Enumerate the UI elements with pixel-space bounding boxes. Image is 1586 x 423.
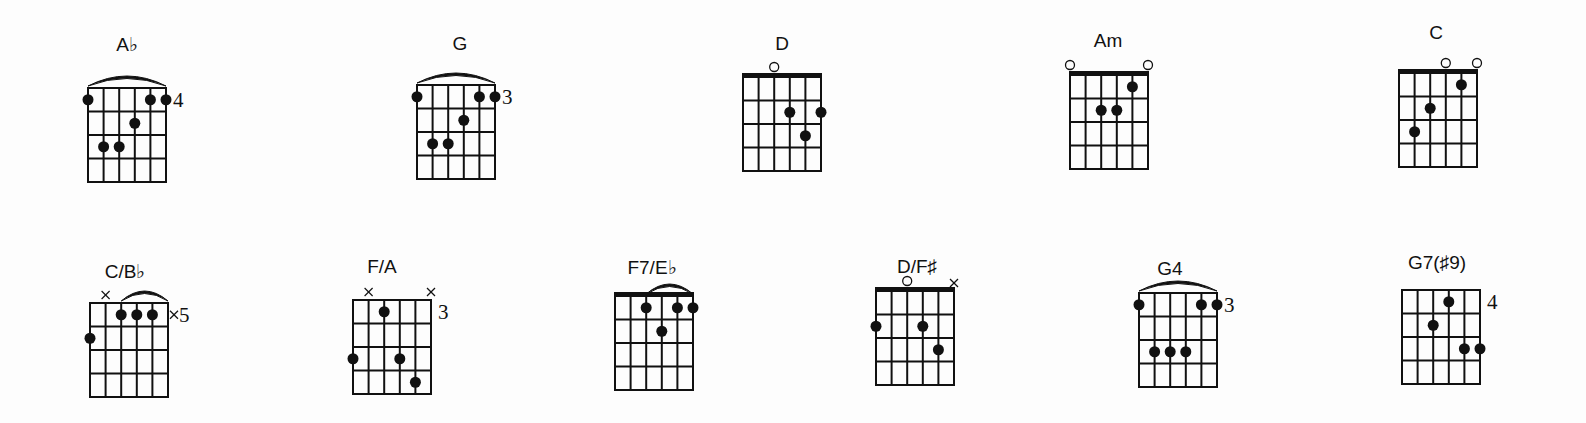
- fretboard-grid: 5: [60, 273, 218, 423]
- finger-dot: [656, 326, 667, 337]
- finger-dot: [348, 353, 359, 364]
- fretboard-grid: [846, 261, 1004, 415]
- finger-dot: [641, 302, 652, 313]
- finger-dot: [474, 91, 485, 102]
- finger-dot: [1425, 103, 1436, 114]
- muted-string-icon: [950, 279, 958, 287]
- finger-dot: [1127, 81, 1138, 92]
- finger-dot: [1111, 105, 1122, 116]
- fretboard-grid: 3: [1109, 263, 1267, 417]
- nut: [1398, 69, 1478, 74]
- finger-dot: [933, 344, 944, 355]
- fret-position-label: 4: [1487, 290, 1498, 314]
- finger-dot: [1165, 346, 1176, 357]
- finger-dot: [871, 321, 882, 332]
- nut: [614, 292, 694, 297]
- muted-string-icon: [427, 288, 435, 296]
- finger-dot: [458, 115, 469, 126]
- nut: [1069, 71, 1149, 76]
- finger-dot: [816, 107, 827, 118]
- muted-string-icon: [365, 288, 373, 296]
- finger-dot: [1196, 299, 1207, 310]
- finger-dot: [672, 302, 683, 313]
- finger-dot: [412, 91, 423, 102]
- finger-dot: [394, 353, 405, 364]
- finger-dot: [161, 94, 172, 105]
- fretboard-grid: [713, 47, 871, 201]
- open-string-icon: [1144, 61, 1153, 70]
- chord-name: C: [1429, 22, 1443, 44]
- finger-dot: [114, 141, 125, 152]
- finger-dot: [800, 130, 811, 141]
- finger-dot: [1459, 343, 1470, 354]
- finger-dot: [1428, 320, 1439, 331]
- fret-position-label: 5: [179, 303, 190, 327]
- barre-arc-icon: [88, 76, 166, 86]
- finger-dot: [1180, 346, 1191, 357]
- nut: [742, 73, 822, 78]
- finger-dot: [427, 138, 438, 149]
- open-string-icon: [903, 277, 912, 286]
- fretboard-grid: [1040, 45, 1198, 199]
- nut: [875, 287, 955, 292]
- finger-dot: [85, 333, 96, 344]
- finger-dot: [98, 141, 109, 152]
- open-string-icon: [770, 63, 779, 72]
- finger-dot: [688, 302, 699, 313]
- fretboard-grid: [1369, 43, 1527, 197]
- finger-dot: [1096, 105, 1107, 116]
- fret-position-label: 4: [173, 88, 184, 112]
- finger-dot: [129, 118, 140, 129]
- fretboard-grid: 3: [323, 270, 481, 423]
- finger-dot: [410, 377, 421, 388]
- muted-string-icon: [102, 291, 110, 299]
- finger-dot: [1475, 343, 1486, 354]
- finger-dot: [1134, 299, 1145, 310]
- finger-dot: [443, 138, 454, 149]
- fretboard-grid: 4: [58, 58, 216, 212]
- finger-dot: [145, 94, 156, 105]
- finger-dot: [917, 321, 928, 332]
- finger-dot: [1456, 79, 1467, 90]
- open-string-icon: [1473, 59, 1482, 68]
- fretboard-grid: 3: [387, 55, 545, 209]
- open-string-icon: [1066, 61, 1075, 70]
- fret-position-label: 3: [502, 85, 513, 109]
- finger-dot: [83, 94, 94, 105]
- finger-dot: [147, 309, 158, 320]
- fretboard-grid: [585, 266, 743, 420]
- barre-arc-icon: [1139, 281, 1217, 291]
- finger-dot: [1149, 346, 1160, 357]
- finger-dot: [379, 306, 390, 317]
- chord-name: A♭: [116, 33, 138, 56]
- fret-position-label: 3: [1224, 293, 1235, 317]
- finger-dot: [1212, 299, 1223, 310]
- finger-dot: [131, 309, 142, 320]
- fret-position-label: 3: [438, 300, 449, 324]
- barre-arc-icon: [417, 73, 495, 83]
- finger-dot: [490, 91, 501, 102]
- chord-name: G: [453, 33, 468, 55]
- finger-dot: [1443, 296, 1454, 307]
- fretboard-grid: 4: [1372, 260, 1530, 414]
- finger-dot: [784, 107, 795, 118]
- open-string-icon: [1441, 59, 1450, 68]
- finger-dot: [1409, 126, 1420, 137]
- barre-arc-icon: [121, 291, 168, 301]
- finger-dot: [116, 309, 127, 320]
- muted-string-icon: [170, 311, 178, 319]
